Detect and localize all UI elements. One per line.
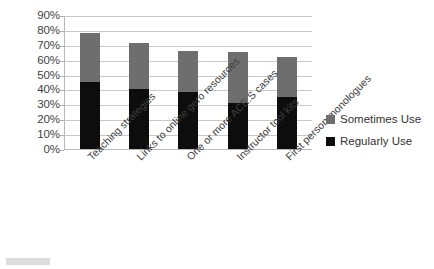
y-axis-tick-label: 40% (6, 84, 60, 95)
chart-legend: Sometimes UseRegularly Use (326, 108, 432, 152)
y-axis-tick-label: 70% (6, 40, 60, 51)
legend-swatch-icon (326, 137, 335, 146)
footer-artifact (6, 258, 50, 265)
bar-segment-regularly-use (80, 82, 100, 149)
stacked-bar-chart: 90%80%70%60%50%40%30%20%10%0% Teaching s… (0, 0, 434, 269)
bar-column (178, 16, 198, 149)
y-axis-tick-label: 30% (6, 99, 60, 110)
x-axis-labels: Teaching strategiesLinks to online gero … (64, 150, 312, 260)
legend-item: Regularly Use (326, 130, 432, 152)
legend-item: Sometimes Use (326, 108, 432, 130)
legend-item-label: Sometimes Use (340, 113, 421, 125)
legend-item-label: Regularly Use (340, 135, 412, 147)
bar-segment-sometimes-use (277, 57, 297, 97)
y-axis: 90%80%70%60%50%40%30%20%10%0% (0, 16, 60, 150)
y-axis-tick-label: 0% (6, 144, 60, 155)
y-axis-tick-label: 10% (6, 129, 60, 140)
bar-segment-sometimes-use (178, 51, 198, 93)
legend-swatch-icon (326, 115, 335, 124)
bar-column (129, 16, 149, 149)
bar-column (80, 16, 100, 149)
bar-segment-sometimes-use (129, 43, 149, 89)
y-axis-tick-label: 20% (6, 114, 60, 125)
y-axis-tick-label: 80% (6, 25, 60, 36)
bar-column (277, 16, 297, 149)
bar-column (228, 16, 248, 149)
y-axis-tick-label: 60% (6, 55, 60, 66)
bar-segment-sometimes-use (80, 33, 100, 82)
y-axis-tick-label: 50% (6, 70, 60, 81)
y-axis-tick-label: 90% (6, 10, 60, 21)
